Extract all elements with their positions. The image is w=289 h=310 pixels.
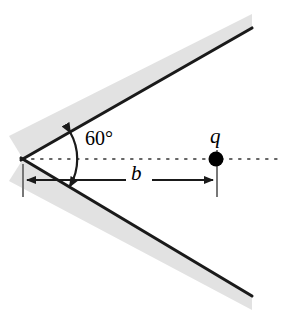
distance-label-b: b	[131, 163, 142, 184]
point-charge-dot	[209, 152, 224, 167]
charge-label-q: q	[210, 126, 221, 147]
angle-arc	[70, 132, 77, 186]
diagram-canvas	[0, 0, 289, 310]
angle-label: 60°	[85, 128, 113, 148]
physics-diagram-figure: 60° b q	[0, 0, 289, 310]
